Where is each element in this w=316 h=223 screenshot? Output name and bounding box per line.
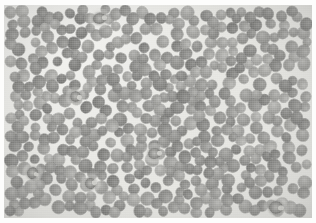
leukocyte-cytoplasm-halo	[78, 171, 103, 196]
leukocyte-nucleus	[25, 165, 39, 180]
leukocyte-nucleus	[68, 89, 81, 102]
leukocyte-cytoplasm-halo	[261, 193, 290, 218]
leukocyte-cytoplasm-halo	[18, 159, 45, 188]
nucleus-lobe-notch	[91, 180, 96, 185]
micrograph-image	[4, 5, 312, 218]
leukocyte-nucleus	[92, 12, 106, 25]
leukocyte-nucleus	[147, 147, 161, 159]
leukocyte-nucleus	[268, 200, 283, 214]
nucleus-lobe-notch	[101, 15, 107, 20]
nucleus-lobe-notch	[278, 205, 284, 211]
leukocyte-cytoplasm-halo	[141, 142, 167, 165]
nucleus-lobe-notch	[156, 150, 161, 155]
nucleus-lobe-notch	[76, 94, 81, 99]
leukocyte-layer	[4, 5, 312, 218]
leukocyte-cytoplasm-halo	[62, 83, 87, 108]
photomicrograph-figure	[0, 0, 316, 223]
leukocyte-cytoplasm-halo	[85, 6, 112, 30]
leukocyte-nucleus	[83, 176, 96, 189]
